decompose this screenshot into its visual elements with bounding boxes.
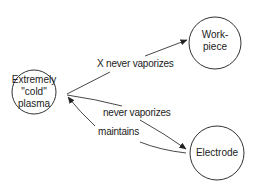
workpiece-label-line-1: Work- <box>190 29 240 41</box>
electrode-node-label: Electrode <box>190 147 244 159</box>
electrode-label-line-1: Electrode <box>190 147 244 159</box>
plasma-label-line-3: plasma <box>10 98 58 110</box>
plasma-node-label: Extremely "cold" plasma <box>10 74 58 110</box>
edge-label-never-vaporizes: never vaporizes <box>103 107 171 118</box>
workpiece-label-line-2: piece <box>190 41 240 53</box>
plasma-label-line-1: Extremely <box>10 74 58 86</box>
plasma-label-line-2: "cold" <box>10 86 58 98</box>
edge-label-maintains: maintains <box>98 126 139 137</box>
edge-plasma-to-electrode-arrow <box>67 95 186 149</box>
workpiece-node-label: Work- piece <box>190 29 240 53</box>
edge-label-x-never-vaporizes: X never vaporizes <box>97 58 174 69</box>
edge-electrode-to-plasma-arrow <box>68 97 186 153</box>
